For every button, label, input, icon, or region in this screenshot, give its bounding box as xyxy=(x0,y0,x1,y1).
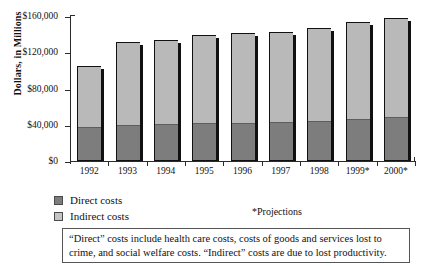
x-axis-line xyxy=(70,161,415,162)
bar-shadow xyxy=(331,31,334,161)
stacked-bar[interactable] xyxy=(231,33,255,161)
bar-shadow xyxy=(293,35,296,161)
stacked-bar[interactable] xyxy=(192,35,216,161)
legend-swatch-indirect-icon xyxy=(54,212,63,221)
chart-legend: Direct costs Indirect costs xyxy=(54,192,129,224)
bar-segment-direct[interactable] xyxy=(78,127,101,160)
stacked-bar[interactable] xyxy=(346,22,370,161)
bar-segment-direct[interactable] xyxy=(270,122,293,160)
legend-swatch-direct-icon xyxy=(54,196,63,205)
footnote-box: “Direct” costs include health care costs… xyxy=(62,228,410,263)
bar-shadow xyxy=(101,69,104,161)
legend-label-indirect: Indirect costs xyxy=(70,210,129,222)
y-tick xyxy=(65,162,70,163)
legend-label-direct: Direct costs xyxy=(70,194,122,206)
stacked-bar[interactable] xyxy=(307,28,331,161)
y-tick-label: $120,000 xyxy=(0,48,58,57)
bar-shadow xyxy=(408,21,411,161)
cost-chart: Dollars, in Millions $0$40,000$80,000$12… xyxy=(0,0,422,266)
projections-note: *Projections xyxy=(252,206,302,217)
bar-segment-direct[interactable] xyxy=(385,117,408,161)
stacked-bar[interactable] xyxy=(154,40,178,161)
bar-segment-direct[interactable] xyxy=(232,123,255,160)
y-tick-label: $0 xyxy=(0,157,58,166)
legend-item-direct: Direct costs xyxy=(54,192,129,208)
x-tick-label: 2000* xyxy=(373,166,419,176)
stacked-bar[interactable] xyxy=(269,32,293,161)
y-tick-label: $160,000 xyxy=(0,12,58,21)
legend-item-indirect: Indirect costs xyxy=(54,208,129,224)
bar-segment-direct[interactable] xyxy=(193,123,216,160)
plot-area: $0$40,000$80,000$120,000$160,000 1992199… xyxy=(70,17,415,162)
stacked-bar[interactable] xyxy=(77,66,101,161)
bar-segment-direct[interactable] xyxy=(155,124,178,160)
y-tick-label: $80,000 xyxy=(0,85,58,94)
stacked-bar[interactable] xyxy=(384,18,408,161)
bar-shadow xyxy=(370,25,373,161)
stacked-bar[interactable] xyxy=(116,42,140,161)
bar-group xyxy=(70,16,415,161)
bar-segment-direct[interactable] xyxy=(308,121,331,160)
bar-shadow xyxy=(178,43,181,161)
bar-segment-direct[interactable] xyxy=(117,125,140,160)
y-tick-label: $40,000 xyxy=(0,121,58,130)
bar-shadow xyxy=(140,45,143,161)
bar-shadow xyxy=(216,38,219,161)
bar-shadow xyxy=(255,36,258,161)
bar-segment-direct[interactable] xyxy=(347,119,370,160)
